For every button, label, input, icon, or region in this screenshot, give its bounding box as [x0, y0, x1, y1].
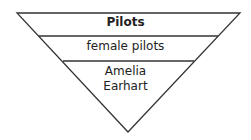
level-2-label: female pilots [0, 39, 251, 53]
level-1-label: Pilots [0, 15, 251, 29]
level-3-label: Amelia Earhart [0, 64, 251, 94]
level-3-line-1: Amelia [0, 64, 251, 79]
level-3-line-2: Earhart [0, 79, 251, 94]
